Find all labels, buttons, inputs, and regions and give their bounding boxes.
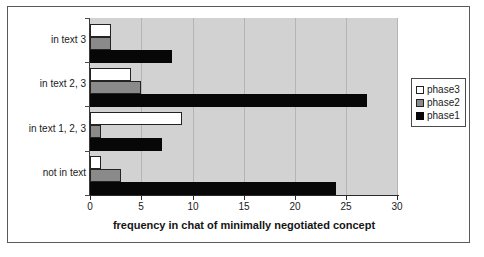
y-axis-line	[89, 18, 90, 196]
x-tick-5	[141, 196, 142, 200]
x-tick-label-15: 15	[229, 201, 259, 213]
x-tick-10	[193, 196, 194, 200]
bar-in-text-2-3-phase3	[90, 68, 131, 81]
y-category-in-text-3: in text 3	[4, 34, 86, 46]
x-tick-label-25: 25	[331, 201, 361, 213]
bar-in-text-1-2-3-phase1	[90, 138, 162, 151]
x-tick-label-10: 10	[178, 201, 208, 213]
legend-label-phase2: phase2	[427, 97, 460, 109]
legend-item-phase1: phase1	[416, 109, 460, 122]
x-tick-label-5: 5	[126, 201, 156, 213]
legend-swatch-phase3-icon	[416, 86, 424, 94]
x-tick-15	[244, 196, 245, 200]
bar-in-text-2-3-phase1	[90, 94, 367, 107]
legend-item-phase2: phase2	[416, 96, 460, 109]
bar-in-text-3-phase2	[90, 37, 111, 50]
y-category-not-in-text: not in text	[4, 167, 86, 179]
legend-item-phase3: phase3	[416, 83, 460, 96]
x-tick-30	[397, 196, 398, 200]
x-tick-label-30: 30	[382, 201, 412, 213]
chart-legend: phase3 phase2 phase1	[411, 78, 466, 127]
x-tick-20	[295, 196, 296, 200]
bar-in-text-1-2-3-phase2	[90, 125, 101, 138]
chart-figure: 0 5 10 15 20 25 30 in text 3 in text 2, …	[0, 0, 484, 257]
y-category-in-text-2-3: in text 2, 3	[4, 78, 86, 90]
x-tick-25	[346, 196, 347, 200]
y-axis-labels: in text 3 in text 2, 3 in text 1, 2, 3 n…	[0, 0, 86, 257]
gridline-30	[397, 18, 398, 195]
x-tick-0	[90, 196, 91, 200]
bar-in-text-1-2-3-phase3	[90, 112, 182, 125]
bar-in-text-2-3-phase2	[90, 81, 141, 94]
bar-not-in-text-phase3	[90, 156, 101, 169]
bar-not-in-text-phase1	[90, 182, 336, 195]
bar-in-text-3-phase3	[90, 24, 111, 37]
x-axis-title: frequency in chat of minimally negotiate…	[90, 219, 398, 231]
legend-swatch-phase1-icon	[416, 112, 424, 120]
y-category-in-text-1-2-3: in text 1, 2, 3	[4, 123, 86, 135]
legend-label-phase3: phase3	[427, 84, 460, 96]
x-tick-label-20: 20	[280, 201, 310, 213]
bar-in-text-3-phase1	[90, 50, 172, 63]
plot-area	[90, 18, 398, 195]
legend-label-phase1: phase1	[427, 110, 460, 122]
bar-not-in-text-phase2	[90, 169, 121, 182]
legend-swatch-phase2-icon	[416, 99, 424, 107]
